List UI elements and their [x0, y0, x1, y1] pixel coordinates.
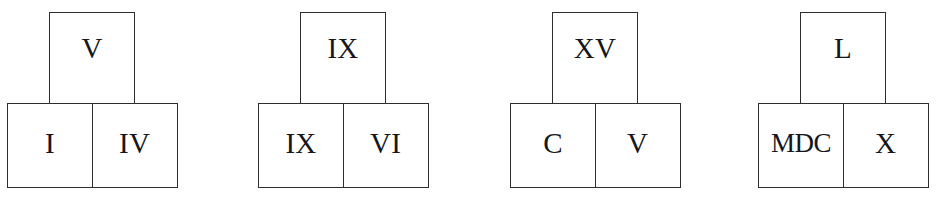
- pyramid-2: IX IX VI: [258, 0, 429, 207]
- pyramid-2-bottom-row: IX VI: [258, 103, 429, 188]
- pyramid-2-top-cell[interactable]: IX: [300, 12, 386, 103]
- pyramid-1-top-cell[interactable]: V: [49, 12, 135, 103]
- pyramid-3-bottom-left-cell[interactable]: C: [510, 103, 596, 188]
- pyramid-2-bottom-left-cell[interactable]: IX: [258, 103, 344, 188]
- pyramid-4-bottom-left-cell[interactable]: MDC: [758, 103, 844, 188]
- pyramid-4-bottom-row: MDC X: [758, 103, 929, 188]
- pyramid-3-top-label: XV: [574, 34, 616, 63]
- pyramid-2-top-label: IX: [327, 34, 358, 63]
- pyramid-4-bottom-right-label: X: [875, 129, 896, 158]
- pyramid-4: L MDC X: [758, 0, 929, 207]
- pyramid-3-bottom-row: C V: [510, 103, 681, 188]
- pyramid-2-bottom-left-label: IX: [285, 129, 316, 158]
- puzzle-board: V I IV IX IX VI XV C: [0, 0, 939, 207]
- pyramid-1: V I IV: [7, 0, 178, 207]
- pyramid-1-top-label: V: [81, 34, 102, 63]
- pyramid-1-bottom-left-cell[interactable]: I: [7, 103, 93, 188]
- pyramid-3-bottom-right-cell[interactable]: V: [595, 103, 681, 188]
- pyramid-1-bottom-right-cell[interactable]: IV: [92, 103, 178, 188]
- pyramid-2-bottom-right-label: VI: [370, 129, 401, 158]
- pyramid-4-top-label: L: [834, 34, 852, 63]
- pyramid-3-bottom-right-label: V: [627, 129, 648, 158]
- pyramid-3: XV C V: [510, 0, 681, 207]
- pyramid-4-top-cell[interactable]: L: [800, 12, 886, 103]
- pyramid-1-bottom-row: I IV: [7, 103, 178, 188]
- pyramid-1-bottom-left-label: I: [45, 129, 55, 158]
- pyramid-4-bottom-right-cell[interactable]: X: [843, 103, 929, 188]
- pyramid-1-bottom-right-label: IV: [119, 129, 150, 158]
- pyramid-3-top-cell[interactable]: XV: [552, 12, 638, 103]
- pyramid-3-bottom-left-label: C: [543, 129, 563, 158]
- pyramid-2-bottom-right-cell[interactable]: VI: [343, 103, 429, 188]
- pyramid-4-bottom-left-label: MDC: [771, 130, 831, 157]
